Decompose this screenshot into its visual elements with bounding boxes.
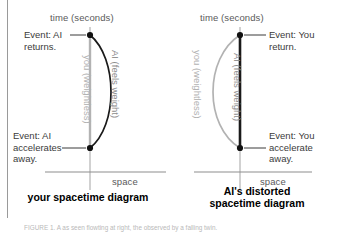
panel-title-line-2: spacetime diagram [176, 197, 338, 209]
event-label-top: Event: You return. [269, 29, 314, 52]
ai-worldline-label: AI (feels weight) [232, 53, 243, 121]
event-label-bottom: Event: You accelerate away. [269, 130, 314, 165]
event-label-bottom-line-1: Event: AI [13, 130, 62, 142]
event-label-top-line-2: returns. [24, 41, 62, 53]
event-label-top-line-1: Event: AI [24, 29, 62, 41]
you-worldline-label: you (weightless) [192, 50, 203, 119]
panel-ai-distorted-spacetime-diagram: time (seconds) space Event: You return. … [176, 0, 338, 215]
event-label-top-line-1: Event: You [269, 29, 314, 41]
event-label-bottom-line-3: away. [269, 153, 314, 165]
event-label-bottom-line-2: accelerates [13, 142, 62, 154]
you-worldline-label: you (weightless) [82, 55, 93, 124]
panel-title-line-1: your spacetime diagram [0, 191, 176, 203]
panel-title-line-1: AI's distorted [176, 185, 338, 197]
ai-worldline-label: AI (feels weight) [110, 50, 121, 118]
top-event-dot [87, 32, 93, 38]
event-label-bottom-line-3: away. [13, 153, 62, 165]
ai-worldline-path [90, 35, 111, 148]
panel-title-your-diagram: your spacetime diagram [0, 191, 176, 203]
time-axis-label: time (seconds) [50, 12, 114, 23]
panel-title-ai-diagram: AI's distorted spacetime diagram [176, 185, 338, 209]
panel-your-spacetime-diagram: time (seconds) space Event: AI returns. … [0, 0, 176, 215]
figure-root: time (seconds) space Event: AI returns. … [0, 0, 338, 233]
figure-caption: FIGURE 1. A as seen flowting at right, t… [24, 224, 324, 232]
event-label-top-line-2: return. [269, 41, 314, 53]
time-axis-label: time (seconds) [200, 12, 264, 23]
event-label-bottom-line-1: Event: You [269, 130, 314, 142]
event-label-top: Event: AI returns. [24, 29, 62, 52]
space-axis-label: space [112, 176, 138, 187]
top-event-dot [237, 32, 243, 38]
bottom-event-dot [237, 145, 243, 151]
event-label-bottom: Event: AI accelerates away. [13, 130, 62, 165]
bottom-event-dot [87, 145, 93, 151]
event-label-bottom-line-2: accelerate [269, 142, 314, 154]
